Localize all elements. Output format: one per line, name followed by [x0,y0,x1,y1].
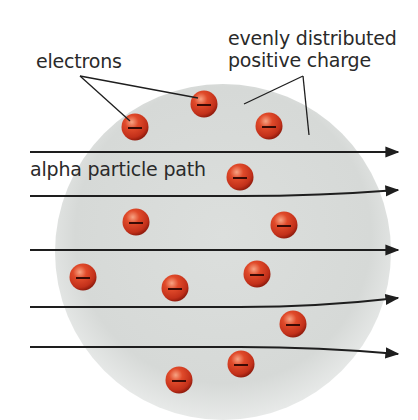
electron-2 [191,91,218,118]
positive-charge-label-line1: evenly distributed [228,27,397,49]
alpha-particle-path-label: alpha particle path [30,158,206,180]
electron-6 [271,212,298,239]
plum-pudding-diagram: electrons evenly distributed positive ch… [0,0,418,420]
electrons-label: electrons [36,50,122,72]
electron-11 [228,351,255,378]
electron-7 [70,264,97,291]
positive-charge-label-line2: positive charge [228,49,371,71]
positive-charge-sphere [55,84,391,420]
electrons-leader-line-2 [80,76,198,98]
electron-10 [280,311,307,338]
electron-9 [244,261,271,288]
positive-charge-sphere-body [55,84,391,420]
electron-4 [227,164,254,191]
electron-5 [123,209,150,236]
electron-12 [166,367,193,394]
electron-8 [162,275,189,302]
electrons-leader-line-1 [80,76,130,121]
electron-3 [256,113,283,140]
